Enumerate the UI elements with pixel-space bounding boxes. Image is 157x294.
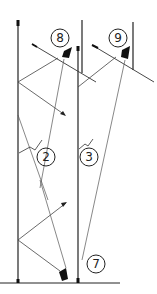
- left-pole-base: [17, 279, 20, 283]
- mirror-line-8: [32, 44, 96, 82]
- ray-lower-down: [18, 240, 60, 271]
- ray-8-to-left: [18, 58, 58, 82]
- ray-9-to-mid: [78, 57, 116, 87]
- mirror-tick-9: [92, 45, 98, 48]
- ray-left-reflect: [18, 82, 65, 115]
- ray-lower-up: [18, 203, 66, 240]
- label-9-text: 9: [114, 31, 122, 45]
- label-7-text: 7: [92, 257, 100, 271]
- ray-long-diagonal: [40, 180, 66, 268]
- label-3-leader: [79, 139, 93, 149]
- label-3-text: 3: [85, 150, 93, 164]
- lamp-8-icon: [62, 47, 72, 58]
- middle-pole-base: [77, 278, 80, 283]
- lamp-7-icon: [59, 268, 68, 281]
- lamp-9-icon: [121, 46, 130, 59]
- middle-pole-top-cap: [77, 46, 80, 51]
- label-8: 8: [51, 29, 69, 47]
- label-3: 3: [80, 148, 98, 166]
- label-2-text: 2: [42, 150, 50, 164]
- left-pole-top-cap: [17, 20, 20, 26]
- mirror-tick-8: [32, 44, 37, 47]
- label-9: 9: [109, 29, 127, 47]
- label-7: 7: [87, 255, 105, 273]
- ray-8-down: [40, 59, 64, 188]
- reflection-diagram: 8 9 2 3 7: [0, 0, 157, 294]
- label-8-text: 8: [56, 31, 64, 45]
- label-2: 2: [37, 148, 55, 166]
